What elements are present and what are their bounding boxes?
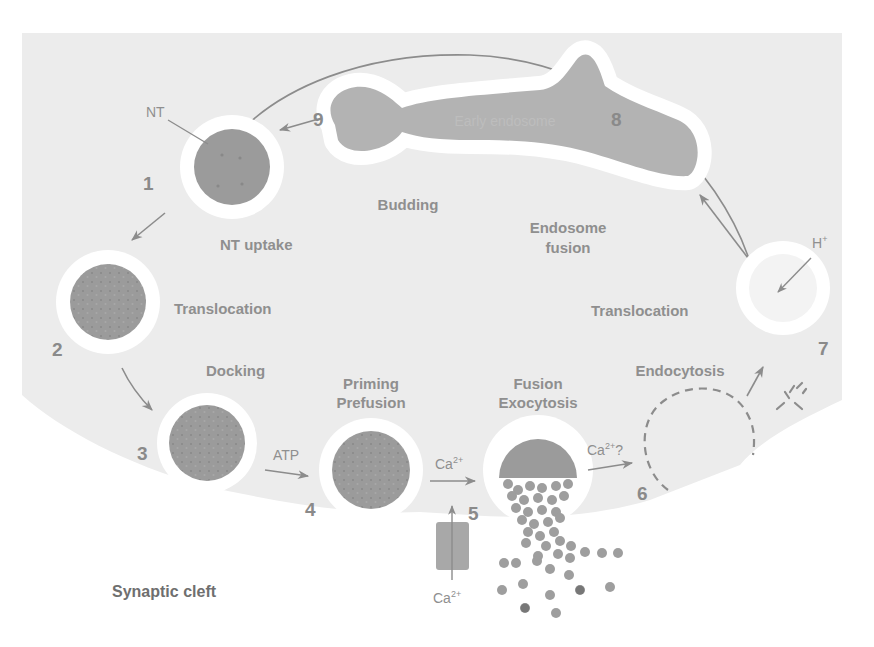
atp-label: ATP — [273, 447, 299, 463]
nt-label: NT — [146, 104, 165, 120]
step-8-label-line1: Endosome — [530, 219, 607, 236]
step-8-number: 8 — [611, 109, 622, 130]
synaptic-cleft-label: Synaptic cleft — [112, 583, 217, 600]
step-2-number: 2 — [52, 339, 63, 360]
early-endosome-label: Early endosome — [454, 113, 555, 129]
step-3-label: Docking — [206, 362, 265, 379]
vesicle-4 — [319, 418, 423, 522]
step-7-label: Translocation — [591, 302, 689, 319]
vesicle-3 — [157, 393, 257, 493]
step-4-number: 4 — [305, 499, 316, 520]
step-2-label: Translocation — [174, 300, 272, 317]
step-1-number: 1 — [143, 173, 154, 194]
step-5-number: 5 — [468, 503, 479, 524]
vesicle-2 — [56, 250, 160, 354]
step-5-label-line1: Fusion — [513, 375, 562, 392]
vesicle-7 — [736, 241, 830, 335]
step-1-label: NT uptake — [220, 236, 293, 253]
step-9-label: Budding — [378, 196, 439, 213]
step-9-number: 9 — [313, 109, 324, 130]
step-8-label-line2: fusion — [546, 239, 591, 256]
step-7-number: 7 — [818, 338, 829, 359]
step-5-label-line2: Exocytosis — [498, 394, 577, 411]
step-6-label: Endocytosis — [635, 362, 724, 379]
ca-channel-label: Ca2+ — [433, 589, 461, 606]
step-3-number: 3 — [137, 443, 148, 464]
vesicle-1 — [180, 115, 284, 219]
synaptic-vesicle-cycle-diagram: Early endosome NT 1 NT uptake 2 Transloc… — [0, 0, 874, 647]
step-6-number: 6 — [637, 483, 648, 504]
step-4-label-line2: Prefusion — [336, 394, 405, 411]
step-4-label-line1: Priming — [343, 375, 399, 392]
